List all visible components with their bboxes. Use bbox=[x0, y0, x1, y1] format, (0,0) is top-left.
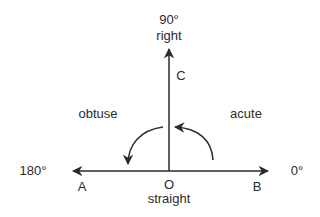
right-angle-label: right bbox=[156, 28, 182, 43]
degree-0-label: 0° bbox=[291, 163, 303, 178]
obtuse-angle-label: obtuse bbox=[78, 106, 117, 121]
acute-arc-arrow bbox=[175, 127, 213, 160]
straight-angle-label: straight bbox=[148, 191, 191, 206]
degree-180-label: 180° bbox=[20, 163, 47, 178]
acute-angle-label: acute bbox=[230, 106, 262, 121]
point-a-label: A bbox=[78, 179, 87, 194]
point-c-label: C bbox=[176, 68, 185, 83]
obtuse-arc-arrow bbox=[128, 127, 163, 164]
degree-90-label: 90° bbox=[159, 12, 179, 27]
point-b-label: B bbox=[253, 179, 262, 194]
point-o-label: O bbox=[164, 177, 174, 192]
angle-types-diagram: 90° 180° 0° right straight obtuse acute … bbox=[0, 0, 320, 217]
